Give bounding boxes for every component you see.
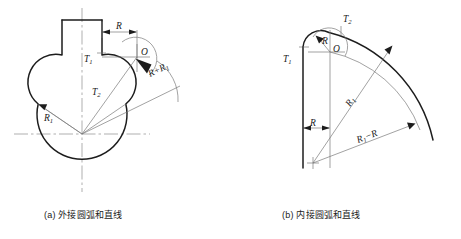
label-RplusR1-a: R+R1 [146, 60, 171, 80]
label-T2-a: T2 [92, 87, 101, 98]
arrowhead-R-right-a [129, 30, 137, 35]
label-R1-b: R1 [343, 95, 358, 110]
panel-a-drawing: R O T1 T2 R1 R+R1 [0, 0, 461, 239]
label-R1minusR-group-b: R1−R [354, 128, 379, 146]
label-T2-b: T2 [343, 14, 352, 25]
label-R1-a: R1 [43, 113, 53, 124]
arrowhead-R-lower-right-b [322, 126, 330, 131]
label-R1-group-b: R1 [343, 95, 358, 110]
label-R-lower-b: R [309, 118, 316, 128]
radius-line-R1minusR-b [313, 125, 412, 163]
caption-panel-b: (b) 内接圆弧和直线 [282, 208, 361, 221]
label-R-a: R [115, 21, 122, 31]
label-T1-b: T1 [283, 54, 292, 65]
arrowhead-R-left-a [102, 30, 110, 35]
caption-panel-a: (a) 外接圆弧和直线 [44, 208, 123, 221]
label-O-b: O [333, 44, 340, 54]
label-R-b: R [321, 36, 328, 46]
label-RplusR1-group-a: R+R1 [146, 60, 171, 80]
arrowhead-R1minusR-b [407, 123, 416, 130]
label-O-a: O [141, 47, 148, 57]
arrowhead-R1-b [385, 46, 393, 55]
figure-root: R O T1 T2 R1 R+R1 [0, 0, 461, 239]
radius-line-to-O-a [82, 57, 137, 134]
label-T1-a: T1 [84, 54, 93, 65]
radius-line-T2-a [82, 104, 126, 134]
label-R1minusR-b: R1−R [354, 128, 379, 146]
